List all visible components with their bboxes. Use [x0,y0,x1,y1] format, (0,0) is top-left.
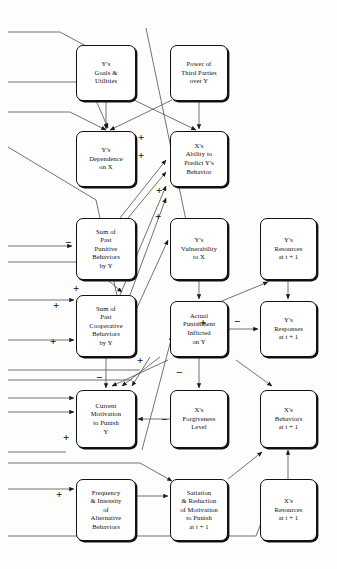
node-label: Power of Third Parties over Y [179,60,219,86]
minus-sign: − [65,237,71,248]
plus-sign: + [138,150,144,161]
plus-sign: + [137,355,143,366]
node-label: Satiation & Reduction of Motivation to P… [178,489,220,532]
node-label: X's Resources at t + 1 [273,497,305,523]
node-y_goals[interactable]: Y's Goals & Utilities [76,45,136,101]
plus-sign: + [200,317,206,328]
node-label: X's Behaviors at t + 1 [273,406,305,432]
node-label: Sum of Past Cooperative Behaviors by Y [87,305,124,348]
node-current_motiv[interactable]: Current Motivation to Punish Y [76,390,136,448]
node-x_resources[interactable]: X's Resources at t + 1 [260,479,317,541]
node-label: Y's Goals & Utilities [93,60,120,86]
node-satiation[interactable]: Satiation & Reduction of Motivation to P… [170,479,228,541]
node-forgiveness[interactable]: X's Forgiveness Level [170,390,228,448]
plus-sign: + [63,432,69,443]
node-label: Y's Dependence on X [87,146,125,172]
node-past_punitive[interactable]: Sum of Past Punitive Behaviors by Y [76,218,136,280]
plus-sign: + [138,132,144,143]
minus-sign: − [96,372,102,383]
node-x_behaviors[interactable]: X's Behaviors at t + 1 [260,390,317,448]
node-third_parties[interactable]: Power of Third Parties over Y [170,45,228,101]
plus-sign: + [155,211,161,222]
node-label: Y's Responses at t + 1 [272,316,305,342]
node-y_resources[interactable]: Y's Resources at t + 1 [260,218,317,280]
plus-sign: + [56,489,62,500]
node-label: Current Motivation to Punish Y [89,402,123,436]
plus-sign: + [53,300,59,311]
edge-group-main [8,32,288,536]
plus-sign: + [73,283,79,294]
minus-sign: − [234,316,240,327]
node-label: Frequency & Intensity of Alternative Beh… [89,489,124,532]
node-label: Sum of Past Punitive Behaviors by Y [90,228,122,271]
plus-sign: + [50,336,56,347]
node-y_responses[interactable]: Y's Responses at t + 1 [260,301,317,357]
node-y_vulnerable[interactable]: Y's Vulnerability to X [170,218,228,280]
plus-sign: + [156,185,162,196]
node-y_dependence[interactable]: Y's Dependence on X [76,131,136,187]
node-x_predict[interactable]: X's Ability to Predict Y's Behavior [170,131,228,187]
minus-sign: − [161,414,167,425]
minus-sign: − [176,367,182,378]
node-label: X's Ability to Predict Y's Behavior [182,142,216,176]
diagram-canvas: Y's Goals & UtilitiesPower of Third Part… [0,0,337,569]
node-label: Y's Resources at t + 1 [273,236,305,262]
node-label: Y's Vulnerability to X [179,236,219,262]
node-past_coop[interactable]: Sum of Past Cooperative Behaviors by Y [76,295,136,357]
node-actual_punish[interactable]: Actual Punishment Inflicted on Y [170,301,228,357]
node-freq_intensity[interactable]: Frequency & Intensity of Alternative Beh… [76,479,136,541]
node-label: Actual Punishment Inflicted on Y [181,312,217,346]
node-label: X's Forgiveness Level [181,406,218,432]
